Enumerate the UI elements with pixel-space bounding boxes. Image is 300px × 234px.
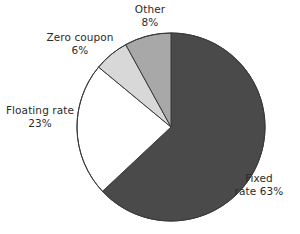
pie-label-fixed-rate-name: Fixed — [222, 172, 296, 185]
pie-label-other-name: Other — [112, 3, 188, 16]
pie-label-zero-coupon: Zero coupon 6% — [34, 31, 126, 56]
pie-label-other-value: 8% — [112, 16, 188, 29]
pie-label-zero-coupon-name: Zero coupon — [34, 31, 126, 44]
pie-label-floating-rate: Floating rate 23% — [2, 104, 78, 129]
pie-label-floating-rate-name: Floating rate — [2, 104, 78, 117]
pie-label-zero-coupon-value: 6% — [34, 44, 126, 57]
pie-label-floating-rate-value: 23% — [2, 117, 78, 130]
pie-label-fixed-rate: Fixed rate 63% — [222, 172, 296, 197]
pie-label-other: Other 8% — [112, 3, 188, 28]
pie-chart: Other 8% Zero coupon 6% Floating rate 23… — [0, 0, 300, 234]
pie-label-fixed-rate-value: rate 63% — [222, 185, 296, 198]
